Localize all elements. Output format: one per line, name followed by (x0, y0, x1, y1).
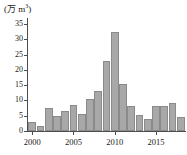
x-axis-tick-mark (32, 132, 33, 135)
bar (45, 108, 53, 131)
plot-area (28, 21, 185, 131)
y-axis-tick-label: 10 (1, 96, 23, 104)
bar (103, 61, 111, 131)
x-axis-tick-mark (115, 132, 116, 135)
bar (61, 111, 69, 131)
bar (160, 106, 168, 131)
x-axis-tick-label: 2000 (24, 137, 41, 147)
x-axis-tick-label: 2015 (148, 137, 165, 147)
bar (177, 117, 185, 131)
bar (136, 115, 144, 131)
bar (28, 122, 36, 131)
y-axis-tick-label: 25 (1, 51, 23, 59)
y-axis-tick-label: 15 (1, 81, 23, 89)
bar (144, 119, 152, 131)
bar (127, 106, 135, 131)
bar (119, 84, 127, 131)
bar (37, 126, 45, 132)
y-axis-tick-label: 0 (1, 127, 23, 135)
bar (78, 114, 86, 131)
bar (152, 106, 160, 131)
bar (169, 103, 177, 131)
y-axis-tick-label: 20 (1, 66, 23, 74)
bar (94, 91, 102, 131)
x-axis-tick-mark (156, 132, 157, 135)
x-axis-tick-label: 2010 (106, 137, 123, 147)
y-axis-tick-label: 35 (1, 20, 23, 28)
bar (86, 99, 94, 131)
x-axis-line (27, 131, 186, 132)
x-axis-tick-label: 2005 (65, 137, 82, 147)
y-axis-tick-label: 5 (1, 112, 23, 120)
bar-chart: (万 m3) 05101520253035 2000200520102015 (0, 0, 187, 155)
y-axis-labels: 05101520253035 (0, 0, 23, 155)
y-axis-tick-mark (24, 131, 28, 132)
bar (70, 105, 78, 131)
y-axis-tick-label: 30 (1, 35, 23, 43)
bar (111, 32, 119, 131)
bar (53, 116, 61, 131)
x-axis-tick-mark (73, 132, 74, 135)
y-axis-unit-close: ) (28, 4, 31, 14)
